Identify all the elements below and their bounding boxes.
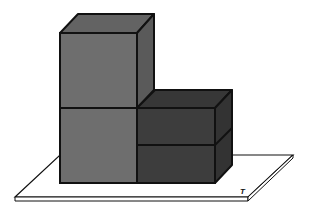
block-diagram: T bbox=[0, 0, 312, 219]
short-box-upper bbox=[137, 108, 215, 145]
short-stack bbox=[137, 90, 232, 183]
tall-column-upper bbox=[60, 33, 137, 108]
short-box-lower bbox=[137, 145, 215, 183]
tall-column-lower bbox=[60, 108, 137, 183]
